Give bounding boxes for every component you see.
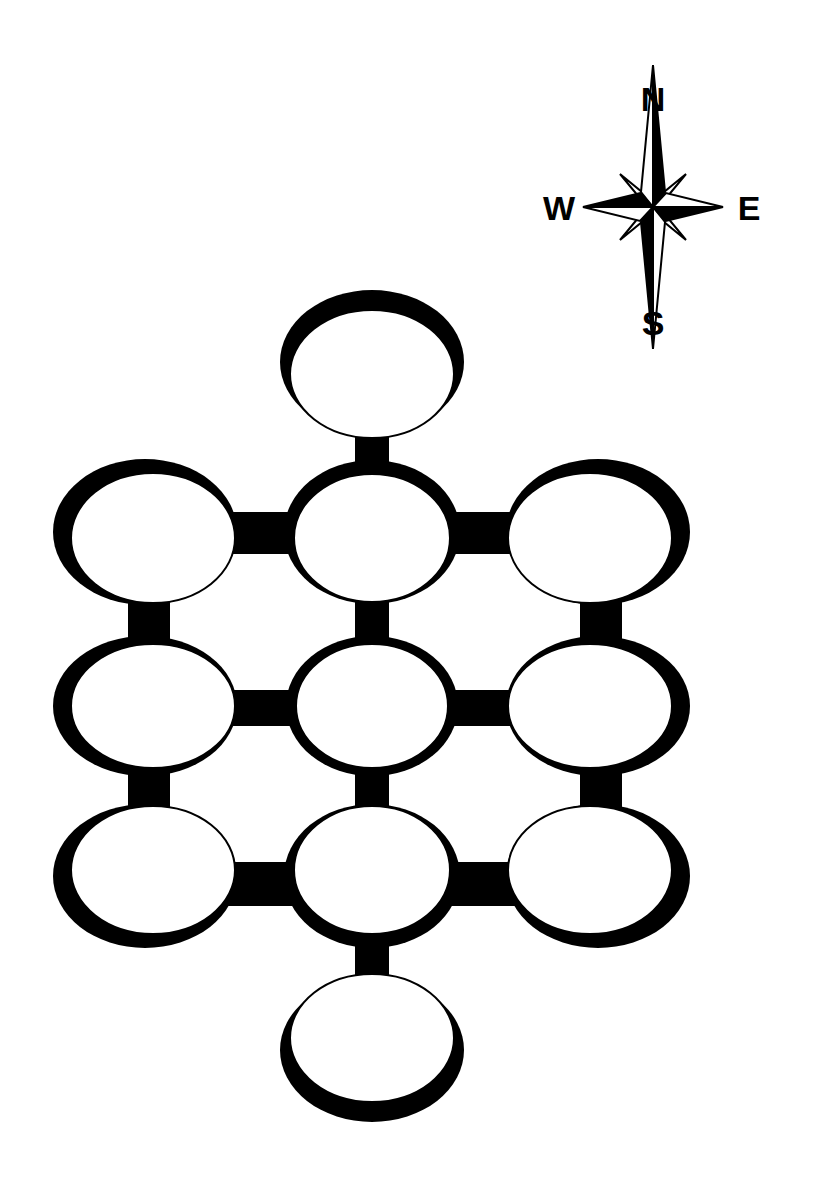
compass-south-label: S bbox=[642, 304, 665, 342]
room-floor bbox=[71, 806, 235, 934]
room-floor bbox=[294, 474, 450, 602]
room-r1-left bbox=[53, 459, 237, 605]
room-floor bbox=[71, 644, 235, 768]
room-r3-right bbox=[506, 804, 690, 948]
room-r1-right bbox=[506, 459, 690, 605]
room-top bbox=[280, 290, 464, 438]
room-floor bbox=[508, 806, 672, 934]
room-r1-center bbox=[284, 460, 460, 604]
rooms-layer bbox=[53, 290, 690, 1122]
dungeon-map: N S E W bbox=[0, 0, 819, 1187]
compass-rose: N S E W bbox=[543, 65, 760, 349]
compass-north-label: N bbox=[641, 80, 666, 118]
room-floor bbox=[294, 806, 450, 934]
room-floor bbox=[296, 644, 448, 768]
room-floor bbox=[290, 974, 454, 1102]
room-r3-center bbox=[284, 804, 460, 948]
room-r2-left bbox=[53, 636, 237, 776]
room-r2-center bbox=[286, 636, 458, 776]
room-bottom bbox=[280, 974, 464, 1122]
compass-west-label: W bbox=[543, 189, 576, 227]
room-r3-left bbox=[53, 804, 237, 948]
room-floor bbox=[71, 473, 235, 603]
room-floor bbox=[290, 310, 454, 438]
compass-east-label: E bbox=[738, 189, 761, 227]
room-floor bbox=[508, 473, 672, 603]
room-floor bbox=[508, 644, 672, 768]
room-r2-right bbox=[506, 636, 690, 776]
